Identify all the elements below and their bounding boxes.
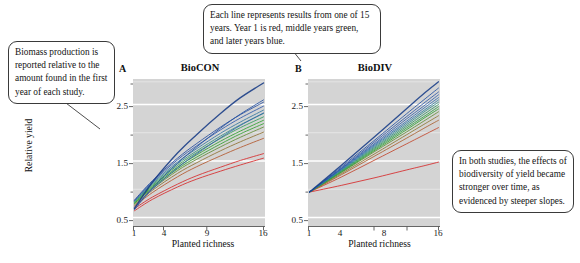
callout-lines-text: Each line represents results from one of… <box>210 9 374 49</box>
series-line <box>135 113 264 207</box>
series-line <box>135 132 264 205</box>
panel-b-xtick-0: 1 <box>300 228 318 238</box>
callout-effects-text: In both studies, the effects of biodiver… <box>459 155 567 208</box>
panel-a-svg <box>133 79 265 226</box>
panel-b-ytick-1: 1.5 <box>281 158 303 168</box>
panel-b-x-axis-title: Planted richness <box>322 238 437 249</box>
panel-a-title: BioCON <box>150 62 250 73</box>
panel-a-ytick-1: 1.5 <box>106 158 128 168</box>
panel-b-xtick-1: 4 <box>331 228 349 238</box>
panel-a-plot-area <box>133 79 265 226</box>
panel-a-ytick-0: 0.5 <box>106 215 128 225</box>
panel-b-xtick-2: 8 <box>375 228 393 238</box>
y-axis-title: Relative yield <box>23 91 34 201</box>
panel-a-xtick-3: 16 <box>254 228 272 238</box>
callout-line-colors-note: Each line represents results from one of… <box>203 4 381 54</box>
panel-b-plot-area <box>308 79 440 226</box>
callout-biomass-note: Biomass production is reported relative … <box>8 41 115 104</box>
panel-b-title: BioDIV <box>320 62 430 73</box>
panel-a-xtick-0: 1 <box>125 228 143 238</box>
panel-b-ytick-0: 0.5 <box>281 215 303 225</box>
panel-a-letter: A <box>119 63 126 74</box>
panel-a-xtick-1: 4 <box>155 228 173 238</box>
panel-b-ytick-2: 2.5 <box>281 101 303 111</box>
figure-canvas: Biomass production is reported relative … <box>0 0 580 263</box>
callout-effects-note: In both studies, the effects of biodiver… <box>452 150 574 213</box>
panel-a-x-axis-title: Planted richness <box>148 238 258 249</box>
callout-biomass-text: Biomass production is reported relative … <box>15 46 108 99</box>
panel-b-svg <box>308 79 440 226</box>
panel-b-xtick-3: 16 <box>429 228 447 238</box>
panel-a-xtick-2: 9 <box>198 228 216 238</box>
